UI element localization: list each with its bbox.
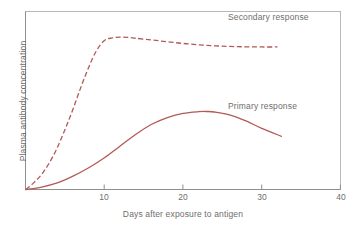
x-tick-label-20: 20 [170,192,196,202]
x-tick-label-30: 30 [249,192,275,202]
x-axis-title: Days after exposure to antigen [25,209,341,219]
antibody-response-chart: Plasma antibody concentration Days after… [0,0,360,233]
x-tick-label-40: 40 [328,192,354,202]
x-tick-label-10: 10 [91,192,117,202]
primary-response-label: Primary response [228,101,297,111]
secondary-response-label: Secondary response [228,12,309,22]
y-axis-title: Plasma antibody concentration [18,16,28,186]
